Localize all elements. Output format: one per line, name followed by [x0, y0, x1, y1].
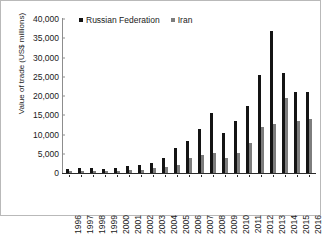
bar-iran-1996: [69, 171, 72, 173]
bar-iran-2008: [213, 153, 216, 173]
legend-swatch-icon: [79, 18, 83, 22]
bar-iran-2004: [165, 167, 168, 173]
bar-iran-2000: [117, 171, 120, 173]
x-tick-mark: [93, 175, 94, 177]
bar-iran-2012: [261, 127, 264, 173]
x-tick-mark: [105, 175, 106, 177]
bar-russian-federation-2012: [258, 75, 261, 173]
y-axis-tick-labels: 40,00035,00030,00025,00020,00015,00010,0…: [12, 1, 59, 217]
x-tick-label: 2002: [145, 215, 155, 234]
x-tick-mark: [297, 175, 298, 177]
x-tick-label: 2010: [241, 215, 251, 234]
bar-group: [267, 19, 279, 173]
y-tick-label: 40,000: [13, 14, 59, 24]
bar-group: [303, 19, 315, 173]
bar-iran-2011: [249, 143, 252, 173]
bar-group: [99, 19, 111, 173]
x-tick-label: 2005: [181, 215, 191, 234]
legend-item: Iran: [171, 15, 193, 25]
bar-iran-1998: [93, 171, 96, 173]
bar-group: [75, 19, 87, 173]
x-axis-tick-labels: 1996199719981999200020012002200320042005…: [63, 175, 315, 217]
x-tick-mark: [81, 175, 82, 177]
y-tick-label: 25,000: [13, 72, 59, 82]
x-tick-label: 2007: [205, 215, 215, 234]
bar-group: [171, 19, 183, 173]
x-tick-label: 2004: [169, 215, 179, 234]
x-axis-line: [62, 173, 316, 174]
x-tick-label: 2001: [133, 215, 143, 234]
y-tick-label: 0: [13, 168, 59, 178]
x-tick-mark: [237, 175, 238, 177]
bar-group: [219, 19, 231, 173]
y-tick-mark: [63, 38, 65, 39]
bar-group: [135, 19, 147, 173]
bar-iran-2010: [237, 153, 240, 173]
bar-russian-federation-1996: [66, 169, 69, 173]
bar-iran-2013: [273, 124, 276, 173]
x-tick-mark: [309, 175, 310, 177]
bar-iran-2016: [309, 119, 312, 173]
bar-iran-2001: [129, 170, 132, 173]
x-tick-mark: [165, 175, 166, 177]
bar-group: [255, 19, 267, 173]
x-tick-mark: [141, 175, 142, 177]
bar-group: [243, 19, 255, 173]
bar-russian-federation-2004: [162, 158, 165, 173]
bar-russian-federation-2000: [114, 168, 117, 173]
bar-iran-2002: [141, 170, 144, 173]
x-tick-label: 2000: [121, 215, 131, 234]
x-tick-mark: [117, 175, 118, 177]
x-tick-label: 2003: [157, 215, 167, 234]
x-tick-label: 1998: [97, 215, 107, 234]
x-tick-mark: [69, 175, 70, 177]
x-tick-mark: [213, 175, 214, 177]
bar-russian-federation-2002: [138, 165, 141, 173]
x-tick-mark: [129, 175, 130, 177]
chart-legend: Russian FederationIran: [79, 15, 192, 25]
bar-iran-2006: [189, 158, 192, 173]
bar-group: [279, 19, 291, 173]
x-tick-label: 2012: [265, 215, 275, 234]
bar-russian-federation-2015: [294, 92, 297, 173]
bar-russian-federation-1999: [102, 169, 105, 173]
x-tick-mark: [201, 175, 202, 177]
x-tick-label: 1999: [109, 215, 119, 234]
x-tick-label: 2008: [217, 215, 227, 234]
y-tick-mark: [63, 57, 65, 58]
y-tick-mark: [63, 19, 65, 20]
bar-iran-1999: [105, 171, 108, 173]
bar-iran-2014: [285, 98, 288, 173]
legend-label: Iran: [178, 15, 193, 25]
bar-russian-federation-2001: [126, 166, 129, 173]
bar-russian-federation-2013: [270, 31, 273, 173]
bar-russian-federation-2005: [174, 148, 177, 173]
y-tick-mark: [63, 76, 65, 77]
x-tick-mark: [225, 175, 226, 177]
y-tick-label: 10,000: [13, 130, 59, 140]
x-tick-label: 2014: [289, 215, 299, 234]
bar-russian-federation-1997: [78, 168, 81, 173]
bar-group: [195, 19, 207, 173]
bar-group: [123, 19, 135, 173]
bar-group: [207, 19, 219, 173]
legend-item: Russian Federation: [79, 15, 160, 25]
x-tick-mark: [189, 175, 190, 177]
bar-iran-2015: [297, 121, 300, 173]
x-tick-label: 2009: [229, 215, 239, 234]
bar-group: [291, 19, 303, 173]
bar-russian-federation-2014: [282, 73, 285, 173]
bar-iran-2009: [225, 158, 228, 173]
x-tick-label: 2015: [301, 215, 311, 234]
y-tick-label: 35,000: [13, 33, 59, 43]
legend-label: Russian Federation: [86, 15, 160, 25]
y-tick-mark: [63, 134, 65, 135]
bar-group: [111, 19, 123, 173]
bar-russian-federation-2006: [186, 141, 189, 173]
y-tick-mark: [63, 115, 65, 116]
bar-group: [183, 19, 195, 173]
bar-russian-federation-2016: [306, 92, 309, 173]
x-tick-label: 2006: [193, 215, 203, 234]
y-tick-mark: [63, 153, 65, 154]
